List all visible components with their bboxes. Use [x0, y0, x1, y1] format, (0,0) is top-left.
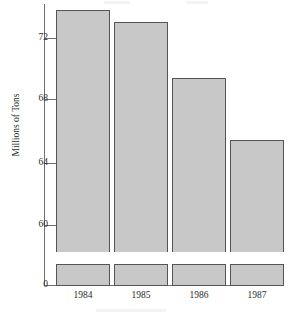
- bar-upper-1985[interactable]: [114, 22, 168, 252]
- bar-stub-1985[interactable]: [114, 264, 168, 286]
- bar-upper-1984[interactable]: [56, 10, 110, 252]
- y-tick-label-72: 72: [39, 33, 49, 43]
- x-label-1987: 1987: [230, 290, 284, 300]
- y-tick-label-68: 68: [39, 94, 49, 104]
- bar-stub-1984[interactable]: [56, 264, 110, 286]
- bar-upper-1987[interactable]: [230, 140, 284, 252]
- x-label-1985: 1985: [114, 290, 168, 300]
- y-tick-label-0: 0: [43, 280, 48, 290]
- y-axis-line: [44, 4, 45, 286]
- bar-chart: Millions of Tons 72 68 64 60 0 1984 1985…: [0, 0, 299, 315]
- y-axis-title: Millions of Tons: [11, 79, 21, 171]
- x-label-1986: 1986: [172, 290, 226, 300]
- x-label-1984: 1984: [56, 290, 110, 300]
- bar-stub-1986[interactable]: [172, 264, 226, 286]
- bar-stub-1987[interactable]: [230, 264, 284, 286]
- y-tick-label-60: 60: [39, 220, 49, 230]
- bar-upper-1986[interactable]: [172, 78, 226, 252]
- y-tick-label-64: 64: [39, 158, 49, 168]
- plot-area: Millions of Tons 72 68 64 60 0 1984 1985…: [0, 0, 299, 315]
